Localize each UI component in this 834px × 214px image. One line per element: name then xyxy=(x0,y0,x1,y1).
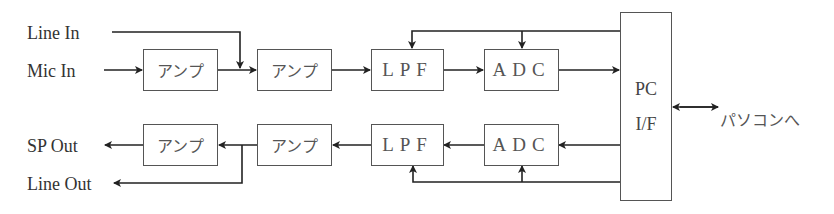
amp2-label: アンプ xyxy=(271,58,318,82)
lpf-block: LPF xyxy=(371,49,444,91)
lpf-label: LPF xyxy=(382,59,433,81)
pc-link-label: パソコンへ xyxy=(720,113,800,129)
connection-lines xyxy=(0,0,834,214)
top-control-to-lpf xyxy=(412,31,620,48)
amp3-block: アンプ xyxy=(143,124,218,166)
pc-if-line2: I/F xyxy=(635,107,656,141)
adc2-label: ADC xyxy=(492,134,550,156)
sp-out-label: SP Out xyxy=(27,137,78,155)
amp1-label: アンプ xyxy=(157,58,204,82)
lpf2-block: LPF xyxy=(371,124,444,166)
adc2-block: ADC xyxy=(484,124,559,166)
lpf2-label: LPF xyxy=(382,134,433,156)
amp4-block: アンプ xyxy=(257,124,332,166)
line-out-label: Line Out xyxy=(27,175,92,193)
pc-interface-block: PC I/F xyxy=(620,12,672,201)
amp1-block: アンプ xyxy=(143,49,218,91)
line-in-label: Line In xyxy=(27,24,79,42)
mic-in-label: Mic In xyxy=(27,62,76,80)
bottom-control-to-lpf2 xyxy=(413,166,620,182)
adc-label: ADC xyxy=(492,59,550,81)
amp2-block: アンプ xyxy=(257,49,332,91)
amp4-label: アンプ xyxy=(271,133,318,157)
amp3-label: アンプ xyxy=(157,133,204,157)
adc-block: ADC xyxy=(484,49,559,91)
pc-if-line1: PC xyxy=(635,72,657,106)
